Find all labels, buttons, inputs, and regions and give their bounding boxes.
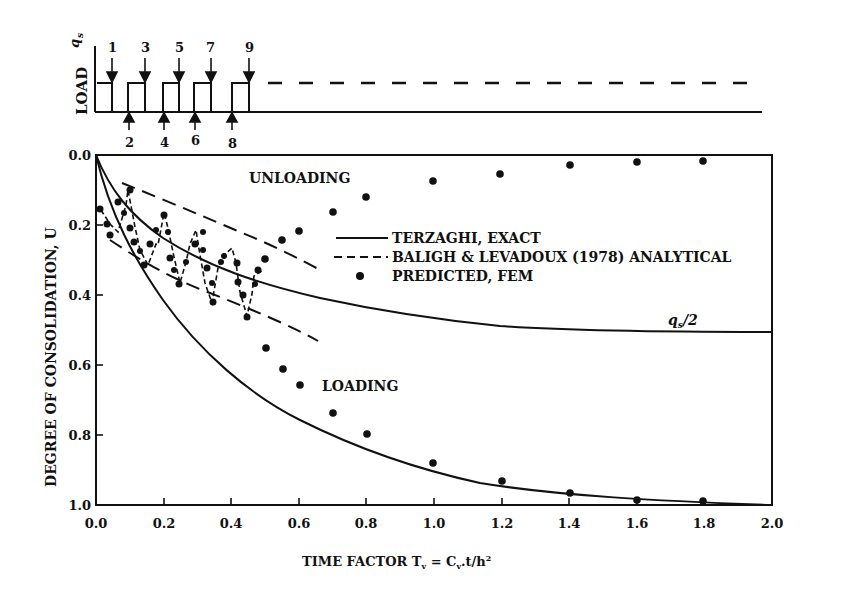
x-ticks [164, 498, 704, 505]
event-label-6: 6 [191, 133, 200, 148]
x-tick-label: 0.0 [85, 516, 108, 531]
x-tick-label: 0.8 [355, 516, 378, 531]
event-label-5: 5 [175, 40, 184, 55]
terzaghi-full-load-curve [96, 155, 770, 505]
load-axis-label: LOAD [73, 67, 91, 115]
x-tick-label: 1.4 [558, 516, 581, 531]
event-label-2: 2 [125, 135, 134, 150]
y-tick-label: 0.8 [68, 428, 91, 443]
x-tick-label: 0.2 [153, 516, 176, 531]
legend-label-terzaghi: TERZAGHI, EXACT [392, 230, 541, 246]
y-ticks [96, 225, 103, 435]
load-pulses [97, 83, 249, 112]
fem-cyclic-path [101, 190, 263, 316]
loading-annotation: LOADING [322, 378, 398, 394]
x-tick-label: 1.8 [693, 516, 716, 531]
event-label-3: 3 [141, 40, 150, 55]
load-history-diagram: LOAD q s 1 3 5 7 9 [67, 33, 762, 151]
event-label-7: 7 [206, 40, 215, 55]
legend-dot-swatch [356, 272, 364, 280]
x-tick-label: 2.0 [761, 516, 784, 531]
load-on-arrows [107, 58, 254, 82]
fem-loading-dots [262, 344, 707, 505]
y-tick-label: 0.0 [68, 148, 91, 163]
x-tick-label: 1.0 [423, 516, 446, 531]
y-tick-label: 0.6 [68, 358, 91, 373]
load-axis-symbol-sub: s [75, 33, 85, 38]
event-label-1: 1 [108, 40, 117, 55]
legend-label-baligh: BALIGH & LEVADOUX (1978) ANALYTICAL [392, 249, 732, 265]
unloading-annotation: UNLOADING [249, 170, 350, 186]
x-tick-label: 1.6 [626, 516, 649, 531]
fem-cyclic-dots [97, 187, 262, 321]
x-tick-label: 0.6 [288, 516, 311, 531]
x-tick-label: 1.2 [491, 516, 514, 531]
chart-figure: LOAD q s 1 3 5 7 9 [0, 0, 844, 595]
plot-frame [96, 155, 772, 505]
legend-label-fem: PREDICTED, FEM [392, 268, 533, 284]
x-tick-label: 0.4 [220, 516, 243, 531]
event-label-9: 9 [245, 40, 254, 55]
y-tick-label: 0.2 [68, 218, 91, 233]
event-label-8: 8 [228, 136, 237, 151]
y-tick-label: 1.0 [68, 498, 91, 513]
load-axis-symbol: q [67, 39, 82, 48]
x-axis-title: TIME FACTOR Tv = Cv.t/h2 [302, 553, 491, 571]
event-label-4: 4 [160, 135, 169, 150]
legend: TERZAGHI, EXACT BALIGH & LEVADOUX (1978)… [334, 230, 732, 284]
y-tick-label: 0.4 [68, 288, 91, 303]
half-load-annotation: qs/2 [668, 312, 698, 330]
main-plot: 0.0 0.2 0.4 0.6 0.8 1.0 0.0 0.2 0.4 0.6 … [43, 148, 783, 571]
load-off-arrows [124, 113, 237, 130]
y-axis-title: DEGREE OF CONSOLIDATION, U [43, 227, 59, 487]
